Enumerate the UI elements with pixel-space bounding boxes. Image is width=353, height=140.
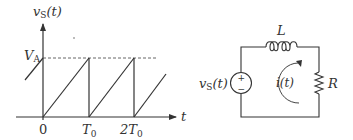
source-label: vS(t) bbox=[199, 76, 228, 92]
amplitude-label: VA bbox=[24, 48, 40, 64]
y-axis-label: vS(t) bbox=[33, 4, 62, 20]
x-tick-2T0: 2T0 bbox=[119, 122, 143, 139]
x-axis-label: t bbox=[181, 109, 187, 124]
sawtooth-ramps bbox=[25, 58, 166, 117]
inductor-symbol bbox=[266, 42, 297, 51]
current-label: i(t) bbox=[276, 76, 294, 90]
source-minus-sign: − bbox=[238, 84, 246, 94]
sawtooth-waveform-plot: vS(t) VA 0 T0 2T0 t bbox=[16, 4, 187, 139]
wire-right-bottom bbox=[241, 93, 319, 117]
stray-dot bbox=[73, 37, 75, 39]
resistor-label: R bbox=[327, 76, 338, 91]
source-plus-sign: + bbox=[238, 73, 246, 83]
wire-top-right bbox=[297, 47, 319, 72]
inductor-label: L bbox=[276, 23, 286, 38]
wire-left-top bbox=[241, 47, 266, 73]
diagram-canvas: vS(t) VA 0 T0 2T0 t bbox=[0, 0, 353, 140]
x-tick-T0: T0 bbox=[82, 122, 97, 139]
x-tick-0: 0 bbox=[39, 122, 47, 137]
resistor-symbol bbox=[315, 72, 323, 94]
